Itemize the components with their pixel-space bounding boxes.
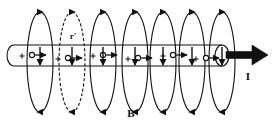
current-arrow-group [226, 45, 268, 65]
field-loop-arc-right [192, 12, 205, 112]
field-loop-arc-left [150, 12, 163, 112]
field-loop-arc-left [179, 12, 192, 112]
field-loop-arc-right [135, 12, 148, 112]
current-direction-arrow [226, 45, 268, 65]
field-label-B: B [127, 107, 135, 119]
current-label-I: I [246, 70, 250, 82]
physics-diagram: B I r' [0, 0, 274, 127]
field-loop-arc-left [90, 12, 103, 112]
radius-label-r-prime: r' [70, 31, 77, 41]
field-loops-group [27, 12, 235, 112]
field-loop-arc-right [163, 12, 176, 112]
field-loop-arc-right [40, 12, 53, 112]
field-loop-arc-right [103, 12, 116, 112]
field-loop-arc-right [222, 12, 235, 112]
conductor-internal-marker [160, 52, 187, 58]
field-loop-arc-right [72, 12, 85, 112]
conductor-internal-marker [19, 52, 46, 58]
field-loop-arc-left [209, 12, 222, 112]
internal-markers-group [19, 47, 222, 65]
field-loop-arc-left [59, 12, 72, 112]
field-loop-arc-left [27, 12, 40, 112]
field-loop-arc-left [122, 12, 135, 112]
conductor-left-cap [7, 45, 14, 66]
diagram-canvas: B I r' [0, 0, 274, 127]
